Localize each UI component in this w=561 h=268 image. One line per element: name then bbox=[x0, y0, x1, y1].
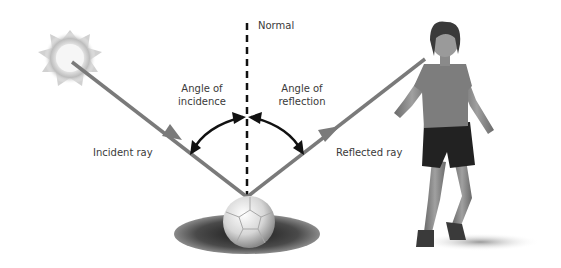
reflected-ray-label: Reflected ray bbox=[336, 146, 402, 159]
angle-of-reflection-line1: Angle of bbox=[271, 82, 333, 95]
angle-of-reflection-label: Angle of reflection bbox=[271, 82, 333, 108]
angle-of-reflection-arc bbox=[248, 112, 304, 155]
reflection-diagram: Normal Angle of incidence Angle of refle… bbox=[0, 0, 561, 268]
person-shadow bbox=[420, 233, 540, 251]
angle-of-reflection-line2: reflection bbox=[271, 95, 333, 108]
incident-ray-label: Incident ray bbox=[93, 146, 153, 159]
person-figure bbox=[394, 21, 540, 251]
angle-of-incidence-label: Angle of incidence bbox=[172, 82, 232, 108]
normal-label: Normal bbox=[258, 19, 294, 32]
arc-arrowhead-icon bbox=[232, 112, 246, 124]
angle-of-incidence-line1: Angle of bbox=[172, 82, 232, 95]
diagram-canvas bbox=[0, 0, 561, 268]
reflected-ray bbox=[247, 59, 425, 197]
angle-of-incidence-line2: incidence bbox=[172, 95, 232, 108]
angle-of-incidence-arc bbox=[190, 112, 246, 155]
soccer-ball-icon bbox=[223, 196, 275, 248]
incident-arrowhead-icon bbox=[162, 124, 182, 140]
arc-arrowhead-icon bbox=[248, 112, 262, 124]
